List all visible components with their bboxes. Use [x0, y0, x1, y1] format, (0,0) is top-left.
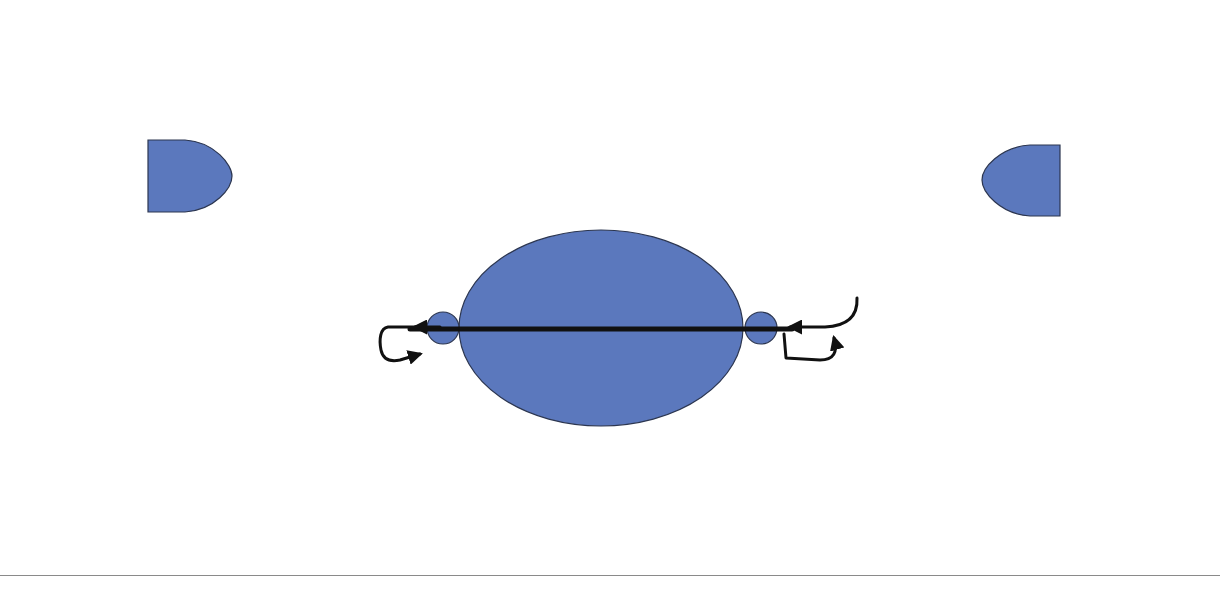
- thread-left-loop: [380, 327, 420, 361]
- thread-right-loop: [784, 334, 835, 360]
- end-oval-left: [148, 140, 232, 212]
- thread-right-entry: [790, 298, 857, 327]
- beading-diagram: [0, 0, 1220, 601]
- end-oval-right: [982, 145, 1060, 216]
- drop-detail: [148, 140, 1060, 426]
- page-divider: [0, 575, 1220, 576]
